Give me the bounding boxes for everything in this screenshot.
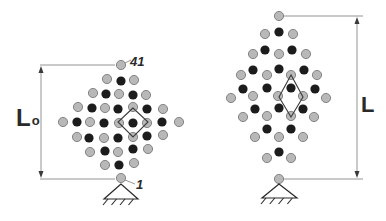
black-node [262,83,271,92]
gray-node [158,104,167,113]
gray-node [128,102,137,111]
black-node [274,27,283,36]
gray-node [116,60,125,69]
right-lattice-nodes [226,11,330,183]
left-length-label: Lo [16,106,40,130]
gray-node [100,160,109,169]
length-label-l0: L [16,104,31,131]
black-node [84,133,93,142]
gray-node [114,89,123,98]
black-node [100,146,109,155]
black-node [274,103,283,112]
gray-node [158,130,167,139]
black-node [101,89,110,98]
black-node [128,90,137,99]
right-arrowhead-down-icon [355,171,360,178]
black-node [157,117,166,126]
gray-node [312,70,321,79]
gray-node [286,153,295,162]
right-lattice [226,11,363,204]
gray-node [143,144,152,153]
gray-node [262,153,271,162]
gray-node [129,75,138,84]
gray-node [129,158,138,167]
black-node [128,118,137,127]
gray-node [274,132,283,141]
gray-node [58,117,67,126]
black-node [113,104,122,113]
gray-node [88,88,97,97]
gray-node [274,174,283,183]
top-node-label: 41 [130,55,144,68]
gray-node [288,29,297,38]
gray-node [85,147,94,156]
length-label-subscript: o [32,113,40,128]
gray-node [226,93,235,102]
gray-node [99,133,108,142]
black-node [287,45,296,54]
gray-node [274,11,283,20]
right-arrowhead-up-icon [355,17,360,24]
gray-node [238,112,247,121]
black-node [142,104,151,113]
gray-node [72,132,81,141]
gray-node [113,147,122,156]
black-node [286,124,295,133]
black-node [310,84,319,93]
gray-node [301,49,310,58]
black-node [114,160,123,169]
black-node [116,76,125,85]
gray-node [262,70,271,79]
black-node [248,65,257,74]
black-node [72,117,81,126]
gray-node [321,93,330,102]
right-pin-support-icon [261,184,297,204]
gray-node [274,49,283,58]
gray-node [100,103,109,112]
black-node [286,83,295,92]
black-node [128,144,137,153]
gray-node [260,29,269,38]
gray-node [248,91,257,100]
black-node [274,147,283,156]
left-pin-support-icon [103,184,138,205]
black-node [113,133,122,142]
left-arrowhead-down-icon [39,171,44,178]
gray-node [262,111,271,120]
gray-node [73,102,82,111]
left-arrowhead-up-icon [39,66,44,73]
label-1-leader [125,180,135,184]
black-node [274,64,283,73]
gray-node [236,70,245,79]
gray-node [309,112,318,121]
black-node [250,104,259,113]
gray-node [174,117,183,126]
black-node [260,45,269,54]
gray-node [141,90,150,99]
black-node [87,103,96,112]
gray-node [116,173,125,182]
black-node [299,65,308,74]
gray-node [250,132,259,141]
black-node [262,124,271,133]
black-node [298,104,307,113]
gray-node [102,74,111,83]
gray-node [85,117,94,126]
left-lattice [39,60,184,205]
black-node [142,131,151,140]
bottom-node-label: 1 [136,178,143,191]
lattice-diagram [0,0,386,221]
left-lattice-nodes [58,60,183,182]
black-node [238,84,247,93]
gray-node [248,49,257,58]
right-length-label: L [361,94,374,116]
black-node [99,118,108,127]
gray-node [298,132,307,141]
